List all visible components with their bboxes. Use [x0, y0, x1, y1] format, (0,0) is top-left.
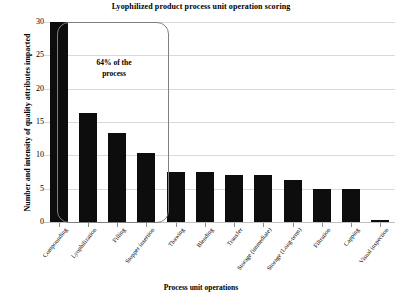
x-tick: [293, 223, 294, 227]
bar: [225, 175, 243, 222]
x-tick: [176, 223, 177, 227]
x-tick: [59, 223, 60, 227]
x-tick: [322, 223, 323, 227]
x-tick: [234, 223, 235, 227]
x-category-label: Compounding: [40, 226, 68, 259]
x-tick: [88, 223, 89, 227]
bar: [342, 189, 360, 222]
x-category-label: Filling: [111, 226, 127, 244]
bar: [371, 220, 389, 222]
y-tick-label: 20: [22, 85, 44, 93]
x-tick: [263, 223, 264, 227]
annotation-label: 64% of the process: [62, 57, 166, 80]
x-category-label: Capping: [342, 226, 361, 247]
y-tick-label: 30: [22, 18, 44, 26]
x-tick: [380, 223, 381, 227]
x-category-label: Filtration: [311, 226, 331, 249]
x-tick: [205, 223, 206, 227]
x-category-label: Stopper insertion: [124, 226, 156, 264]
x-category-label: Transfer: [225, 226, 244, 247]
x-tick: [351, 223, 352, 227]
y-tick-label: 5: [22, 185, 44, 193]
annotation-line-2: process: [102, 69, 126, 78]
x-axis-title: Process unit operations: [0, 283, 402, 292]
x-tick: [117, 223, 118, 227]
bar: [196, 172, 214, 222]
chart-title: Lyophilized product process unit operati…: [0, 2, 402, 11]
x-category-label: Thawing: [166, 226, 185, 248]
annotation-rounded-box: [57, 22, 169, 223]
y-tick-label: 0: [22, 218, 44, 226]
x-category-label: Blending: [195, 226, 215, 249]
x-tick: [146, 223, 147, 227]
y-tick-label: 10: [22, 151, 44, 159]
bar: [167, 172, 185, 222]
bar: [284, 180, 302, 222]
x-category-label: Lyophilization: [69, 226, 97, 259]
y-tick-label: 25: [22, 51, 44, 59]
bar-chart-figure: Lyophilized product process unit operati…: [0, 0, 402, 297]
bar: [313, 189, 331, 222]
x-category-label: Visual inspection: [358, 226, 390, 265]
y-tick-label: 15: [22, 118, 44, 126]
annotation-line-1: 64% of the: [97, 58, 132, 67]
bar: [254, 175, 272, 222]
